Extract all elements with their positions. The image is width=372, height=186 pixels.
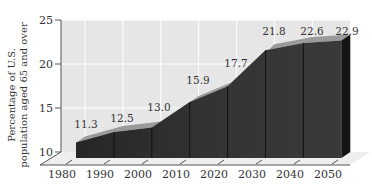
- data-label: 21.8: [262, 25, 285, 37]
- y-tick-label: 15: [39, 102, 53, 115]
- data-label: 12.5: [110, 112, 133, 124]
- y-tick-label: 25: [39, 14, 53, 27]
- x-tick-label: 1980: [48, 168, 76, 181]
- x-tick-label: 2050: [314, 168, 342, 181]
- y-axis-title: Percentage of U.S.population aged 65 and…: [6, 22, 29, 168]
- x-tick-label: 2020: [200, 168, 228, 181]
- x-tick-label: 1990: [86, 168, 114, 181]
- data-label: 17.7: [224, 57, 247, 69]
- area-chart: 10152025 1980199020002010202020302040205…: [0, 0, 372, 186]
- data-label: 15.9: [186, 74, 209, 86]
- x-tick-label: 2030: [238, 168, 266, 181]
- x-tick-label: 2010: [162, 168, 190, 181]
- y-axis-title-line: Percentage of U.S.: [6, 48, 17, 142]
- y-tick-label: 10: [39, 146, 53, 159]
- y-axis: 10152025: [39, 14, 61, 159]
- y-axis-title-line: population aged 65 and over: [18, 22, 29, 168]
- data-label: 11.3: [74, 118, 97, 130]
- x-tick-label: 2000: [124, 168, 152, 181]
- data-label: 22.6: [300, 25, 324, 37]
- x-tick-label: 2040: [276, 168, 304, 181]
- y-tick-label: 20: [39, 58, 53, 71]
- data-label: 22.9: [335, 25, 358, 37]
- data-label: 13.0: [147, 101, 170, 113]
